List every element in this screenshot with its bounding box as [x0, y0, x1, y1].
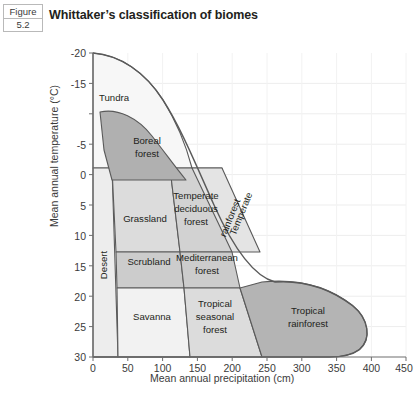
x-tick-label: 0 [90, 362, 96, 374]
y-tick-label: 0 [80, 169, 86, 181]
x-tick-label: 350 [328, 362, 346, 374]
region-savanna [117, 288, 190, 357]
label-temperate-deciduous-line2: deciduous [174, 203, 218, 214]
x-tick-label: 400 [363, 362, 381, 374]
y-tick-label: 5 [80, 200, 86, 212]
label-temperate-deciduous-line3: forest [184, 216, 208, 227]
x-axis-tick-labels: 0 50 100 150 200 250 300 350 400 450 [90, 362, 413, 374]
label-tropical-rainforest-line2: rainforest [288, 318, 328, 329]
label-boreal-forest-line1: Boreal [133, 135, 161, 146]
region-grassland [112, 168, 180, 252]
label-temperate-deciduous-line1: Temperate [173, 190, 218, 201]
x-tick-label: 50 [122, 362, 134, 374]
y-tick-label: -15 [71, 78, 86, 90]
label-tropical-seasonal-line3: forest [203, 324, 227, 335]
x-tick-label: 150 [189, 362, 207, 374]
x-tick-label: 300 [293, 362, 311, 374]
label-mediterranean-line1: Mediterranean [176, 252, 238, 263]
label-grassland: Grassland [123, 213, 167, 224]
x-tick-label: 450 [395, 362, 413, 374]
x-tick-label: 250 [258, 362, 276, 374]
y-tick-label: 20 [74, 291, 86, 303]
label-savanna: Savanna [133, 311, 172, 322]
label-desert: Desert [98, 251, 109, 280]
label-tundra: Tundra [99, 92, 130, 103]
y-tick-label: 25 [74, 321, 86, 333]
label-mediterranean-line2: forest [195, 265, 219, 276]
label-scrubland: Scrubland [127, 256, 170, 267]
x-tick-label: 100 [154, 362, 172, 374]
label-tropical-seasonal-line2: seasonal [196, 311, 234, 322]
y-axis-tick-labels: -20 -15 -5 0 5 10 15 20 25 30 [71, 47, 86, 363]
label-tropical-rainforest-line1: Tropical [291, 305, 325, 316]
y-tick-label: 30 [74, 351, 86, 363]
chart-plot-area: -20 -15 -5 0 5 10 15 20 25 30 0 50 100 1… [0, 0, 415, 398]
y-tick-label: 15 [74, 261, 86, 273]
whittaker-biome-chart: -20 -15 -5 0 5 10 15 20 25 30 0 50 100 1… [0, 0, 415, 398]
y-tick-label: -5 [77, 139, 86, 151]
x-tick-label: 200 [223, 362, 241, 374]
label-boreal-forest-line2: forest [135, 148, 159, 159]
y-tick-label: -20 [71, 47, 86, 59]
label-tropical-seasonal-line1: Tropical [198, 298, 232, 309]
y-tick-label: 10 [74, 230, 86, 242]
